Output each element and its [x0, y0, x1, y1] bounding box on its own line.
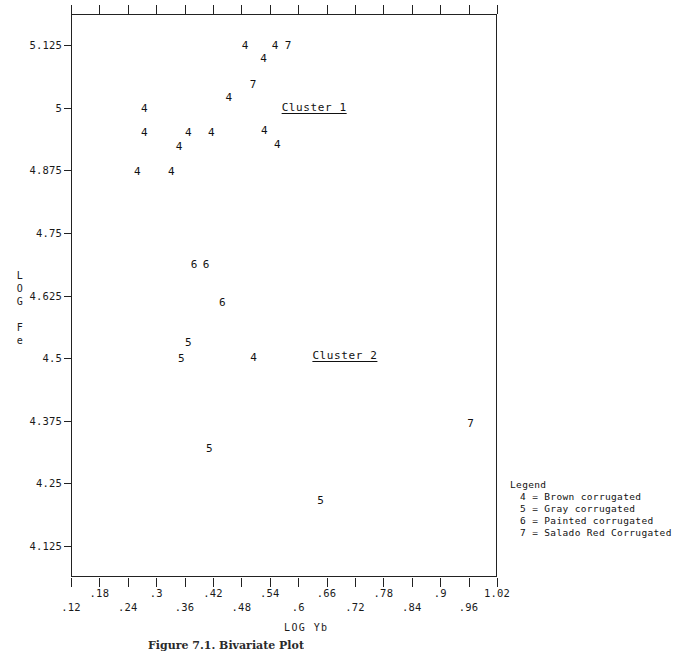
data-point-marker-6: 6: [191, 259, 198, 270]
y-tick-label: 5: [55, 102, 62, 114]
y-axis-title-char: e: [14, 334, 26, 347]
data-point-marker-7: 7: [250, 78, 257, 89]
data-point-marker-4: 4: [272, 39, 279, 50]
data-point-marker-5: 5: [317, 494, 324, 505]
y-axis-title-char: F: [14, 321, 26, 334]
data-point-marker-5: 5: [185, 337, 192, 348]
x-tick-bottom: [327, 578, 328, 587]
x-tick-top: [327, 5, 328, 14]
data-point-marker-4: 4: [250, 351, 257, 362]
y-tick: [64, 483, 72, 484]
data-point-marker-4: 4: [274, 138, 281, 149]
legend-entry-5: 5 = Gray corrugated: [520, 503, 672, 515]
x-axis-title: LOG Yb: [284, 622, 329, 633]
x-tick-label: .66: [317, 587, 337, 599]
x-tick-bottom: [128, 578, 129, 587]
data-point-marker-4: 4: [226, 91, 233, 102]
x-tick-label: .72: [345, 601, 365, 613]
data-point-marker-4: 4: [185, 127, 192, 138]
data-point-marker-4: 4: [260, 52, 267, 63]
x-tick-bottom: [412, 578, 413, 587]
figure-caption: Figure 7.1. Bivariate Plot: [148, 639, 304, 652]
x-tick-bottom: [156, 578, 157, 587]
x-tick-label: .78: [374, 587, 394, 599]
data-point-marker-4: 4: [134, 166, 141, 177]
y-tick-label: 4.25: [36, 477, 62, 489]
x-tick-bottom: [469, 578, 470, 587]
data-point-marker-4: 4: [176, 140, 183, 151]
x-tick-label: .24: [118, 601, 138, 613]
legend-title: Legend: [510, 479, 672, 491]
x-tick-top: [298, 5, 299, 14]
x-tick-top: [185, 5, 186, 14]
x-tick-label: .54: [260, 587, 280, 599]
x-tick-top: [128, 5, 129, 14]
x-tick-bottom: [440, 578, 441, 587]
x-tick-bottom: [241, 578, 242, 587]
x-tick-top: [412, 5, 413, 14]
x-tick-bottom: [355, 578, 356, 587]
x-tick-top: [213, 5, 214, 14]
x-tick-label: .36: [175, 601, 195, 613]
cluster-annotation-2: Cluster 2: [312, 349, 377, 362]
data-point-marker-4: 4: [141, 102, 148, 113]
y-tick: [64, 170, 72, 171]
data-point-marker-7: 7: [467, 417, 474, 428]
data-point-marker-4: 4: [208, 127, 215, 138]
x-tick-label: .96: [459, 601, 479, 613]
data-point-marker-7: 7: [285, 39, 292, 50]
x-tick-top: [99, 5, 100, 14]
y-tick: [64, 546, 72, 547]
data-point-marker-4: 4: [141, 127, 148, 138]
x-tick-top: [440, 5, 441, 14]
x-tick-top: [383, 5, 384, 14]
data-point-marker-6: 6: [219, 297, 226, 308]
x-tick-label: 1.02: [484, 587, 510, 599]
y-tick-label: 4.5: [42, 352, 62, 364]
x-tick-top: [71, 5, 72, 14]
y-axis-title-char: O: [14, 282, 26, 295]
x-tick-top: [156, 5, 157, 14]
y-tick-label: 4.625: [29, 290, 62, 302]
x-tick-bottom: [99, 578, 100, 587]
x-tick-bottom: [497, 578, 498, 587]
x-tick-bottom: [383, 578, 384, 587]
x-tick-label: .9: [434, 587, 447, 599]
x-tick-label: .48: [232, 601, 252, 613]
x-tick-label: .84: [402, 601, 422, 613]
x-tick-bottom: [298, 578, 299, 587]
x-tick-label: .3: [150, 587, 163, 599]
y-tick: [64, 296, 72, 297]
data-point-marker-5: 5: [206, 442, 213, 453]
y-tick: [64, 233, 72, 234]
y-axis-title: LOG.Fe: [14, 269, 26, 347]
legend: Legend 4 = Brown corrugated 5 = Gray cor…: [510, 479, 672, 539]
plot-area-frame: [71, 14, 497, 577]
x-tick-label: .42: [203, 587, 223, 599]
y-tick-label: 4.125: [29, 540, 62, 552]
y-axis-title-char: G: [14, 295, 26, 308]
x-tick-top: [270, 5, 271, 14]
y-tick: [64, 421, 72, 422]
x-tick-bottom: [213, 578, 214, 587]
data-point-marker-4: 4: [242, 39, 249, 50]
y-tick: [64, 358, 72, 359]
x-tick-bottom: [185, 578, 186, 587]
x-tick-top: [355, 5, 356, 14]
y-tick-label: 5.125: [29, 39, 62, 51]
y-tick: [64, 45, 72, 46]
y-tick: [64, 108, 72, 109]
y-tick-label: 4.75: [36, 227, 62, 239]
x-tick-label: .6: [292, 601, 305, 613]
data-point-marker-5: 5: [178, 352, 185, 363]
y-tick-label: 4.375: [29, 415, 62, 427]
legend-entry-4: 4 = Brown corrugated: [520, 491, 672, 503]
data-point-marker-4: 4: [168, 166, 175, 177]
x-tick-top: [469, 5, 470, 14]
x-tick-top: [241, 5, 242, 14]
x-tick-label: .12: [61, 601, 81, 613]
legend-entry-7: 7 = Salado Red Corrugated: [520, 527, 672, 539]
x-tick-top: [497, 5, 498, 14]
y-axis-title-char: L: [14, 269, 26, 282]
